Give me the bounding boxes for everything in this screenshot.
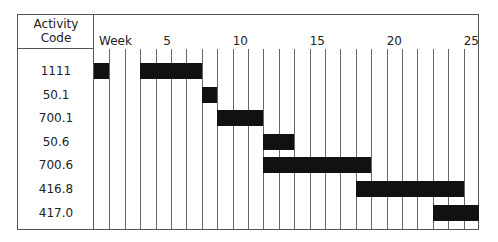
week-gridline <box>356 49 357 229</box>
week-gridline <box>217 49 218 229</box>
activity-code: 700.6 <box>18 157 94 173</box>
week-gridline <box>233 49 234 229</box>
week-gridline <box>325 49 326 229</box>
week-tick-label: 25 <box>463 34 479 48</box>
activity-code: 416.8 <box>18 181 94 197</box>
week-tick-label: 20 <box>386 34 402 48</box>
activity-bar <box>263 134 294 150</box>
week-gridline <box>402 49 403 229</box>
week-gridline <box>248 49 249 229</box>
activity-bar <box>356 181 464 197</box>
header-line-1: Activity <box>18 17 94 31</box>
week-gridline <box>202 49 203 229</box>
week-gridline <box>387 49 388 229</box>
activity-code: 50.1 <box>18 87 94 103</box>
week-gridline <box>448 49 449 229</box>
week-tick-label: 15 <box>309 34 325 48</box>
activity-bar <box>140 63 202 79</box>
activity-bar <box>94 63 109 79</box>
activity-code: 50.6 <box>18 134 94 150</box>
week-axis-label: Week <box>99 34 132 48</box>
week-gridline <box>433 49 434 229</box>
week-gridline <box>371 49 372 229</box>
activity-code-header: Activity Code <box>18 17 94 45</box>
week-tick-label: 10 <box>232 34 248 48</box>
gantt-chart: Activity Code 111150.1700.150.6700.6416.… <box>17 14 479 230</box>
header-divider <box>18 48 94 49</box>
week-gridline <box>294 49 295 229</box>
week-gridline <box>340 49 341 229</box>
activity-bar <box>202 87 217 103</box>
week-grid: Week 510152025 <box>94 15 479 229</box>
activity-bar <box>263 157 371 173</box>
header-line-2: Code <box>18 31 94 45</box>
activity-code: 1111 <box>18 63 94 79</box>
activity-code: 700.1 <box>18 110 94 126</box>
week-gridline <box>464 49 465 229</box>
week-tick-label: 5 <box>155 34 171 48</box>
week-gridline <box>125 49 126 229</box>
activity-code-column: Activity Code 111150.1700.150.6700.6416.… <box>18 15 94 229</box>
week-gridline <box>109 49 110 229</box>
week-gridline <box>310 49 311 229</box>
activity-bar <box>217 110 263 126</box>
activity-bar <box>433 205 479 221</box>
week-gridline <box>417 49 418 229</box>
activity-code: 417.0 <box>18 205 94 221</box>
